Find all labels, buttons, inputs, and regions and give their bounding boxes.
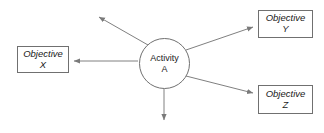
node-activity-a-label-line2: A — [161, 64, 167, 75]
node-objective-x-label-line2: X — [40, 60, 46, 71]
arrow-to-objective-z — [186, 76, 253, 93]
node-objective-z-label-line2: Z — [283, 100, 289, 111]
arrow-to-objective-y — [186, 27, 253, 50]
node-objective-z-label-line1: Objective — [266, 89, 306, 100]
node-activity-a-label-line1: Activity — [150, 53, 179, 64]
node-objective-z[interactable]: Objective Z — [258, 85, 313, 114]
node-objective-x-label-line1: Objective — [23, 49, 63, 60]
diagram-canvas: Objective X Objective Y Objective Z Acti… — [0, 0, 324, 133]
arrow-dangling-up-left — [99, 17, 148, 45]
node-activity-a[interactable]: Activity A — [139, 38, 190, 89]
node-objective-y[interactable]: Objective Y — [258, 10, 313, 38]
node-objective-y-label-line2: Y — [282, 24, 288, 35]
node-objective-x[interactable]: Objective X — [17, 46, 69, 73]
